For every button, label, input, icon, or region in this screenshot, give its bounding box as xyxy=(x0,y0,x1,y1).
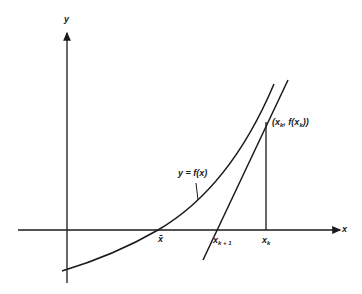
root-tick-label: x̄ xyxy=(158,234,163,244)
curve-label-leader xyxy=(196,183,198,200)
diagram-canvas xyxy=(0,0,362,294)
current-iterate-label: xk xyxy=(262,235,270,246)
next-iterate-label: xk + 1 xyxy=(213,235,232,246)
tangent-line xyxy=(203,80,288,260)
curve-label: y = f(x) xyxy=(178,168,207,178)
x-axis-label: x xyxy=(342,224,347,234)
point-label: (xk, f(xk)) xyxy=(272,117,309,128)
y-axis-label: y xyxy=(64,14,69,24)
newton-method-diagram: y x y = f(x) (xk, f(xk)) x̄ xk + 1 xk xyxy=(0,0,362,294)
